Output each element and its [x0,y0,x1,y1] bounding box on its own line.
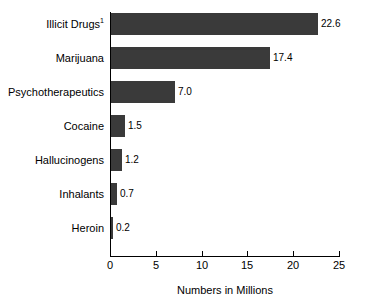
category-label-text: Marijuana [56,52,104,64]
bar-value-marijuana: 17.4 [269,47,292,69]
x-tick-mark-15 [247,251,248,256]
bar-value-psychotherapeutics: 7.0 [174,81,192,103]
category-label-heroin: Heroin [72,217,104,239]
x-tick-label-15: 15 [227,259,267,272]
bar-value-cocaine: 1.5 [124,115,142,137]
bar-illicit-drugs [111,13,318,35]
category-label-marijuana: Marijuana [56,47,104,69]
bar-chart: Illicit Drugs1 Marijuana Psychotherapeut… [0,0,370,307]
y-axis-line [110,12,111,257]
category-label-psychotherapeutics: Psychotherapeutics [8,81,104,103]
category-label-text: Cocaine [64,120,104,132]
category-label-text: Heroin [72,222,104,234]
bar-marijuana [111,47,270,69]
category-label-text: Inhalants [59,188,104,200]
category-label-text: Hallucinogens [35,154,104,166]
category-label-text: Illicit Drugs [46,18,100,30]
bar-value-heroin: 0.2 [112,217,130,239]
bar-psychotherapeutics [111,81,175,103]
x-tick-mark-10 [202,251,203,256]
x-tick-label-0: 0 [90,259,130,272]
x-axis-title: Numbers in Millions [110,283,340,297]
x-axis-line [110,256,340,257]
x-tick-mark-20 [293,251,294,256]
category-label-illicit-drugs: Illicit Drugs1 [46,13,104,35]
footnote-marker: 1 [100,17,104,24]
bar-value-inhalants: 0.7 [116,183,134,205]
bar-value-illicit-drugs: 22.6 [317,13,340,35]
bar-value-hallucinogens: 1.2 [121,149,139,171]
category-label-cocaine: Cocaine [64,115,104,137]
x-tick-label-20: 20 [273,259,313,272]
category-label-text: Psychotherapeutics [8,86,104,98]
category-label-inhalants: Inhalants [59,183,104,205]
bar-cocaine [111,115,125,137]
x-tick-mark-0 [110,251,111,256]
x-tick-label-10: 10 [182,259,222,272]
category-label-hallucinogens: Hallucinogens [35,149,104,171]
x-tick-label-5: 5 [136,259,176,272]
x-tick-mark-5 [156,251,157,256]
x-tick-label-25: 25 [319,259,359,272]
x-tick-mark-25 [339,251,340,256]
